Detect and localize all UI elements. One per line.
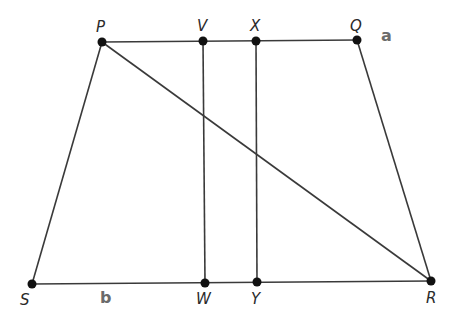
label-Q: Q [350, 17, 362, 35]
point-R [427, 277, 436, 286]
label-X: X [249, 17, 261, 35]
segment-XY [256, 41, 257, 282]
point-X [252, 37, 261, 46]
point-Q [353, 36, 362, 45]
label-P: P [96, 18, 106, 36]
points [28, 36, 436, 289]
segment-SR [32, 281, 431, 284]
point-W [201, 279, 210, 288]
label-Y: Y [251, 290, 262, 308]
trapezoid-diagram: P V X Q S W Y R a b [0, 0, 464, 321]
diagram-canvas: P V X Q S W Y R a b [0, 0, 464, 321]
side-labels: a b [100, 26, 392, 307]
side-label-b: b [100, 288, 111, 307]
label-W: W [196, 290, 212, 308]
label-R: R [426, 289, 436, 307]
segment-QR [357, 40, 431, 281]
segment-PQ [102, 40, 357, 42]
label-V: V [197, 17, 209, 35]
segment-VW [203, 41, 205, 283]
side-label-a: a [381, 26, 392, 45]
segments [32, 40, 431, 284]
label-S: S [20, 291, 30, 309]
point-S [28, 280, 37, 289]
vertex-labels: P V X Q S W Y R [20, 17, 436, 309]
point-V [199, 37, 208, 46]
segment-PS [32, 42, 102, 284]
segment-PR-diagonal [102, 42, 431, 281]
point-P [98, 38, 107, 47]
point-Y [253, 278, 262, 287]
